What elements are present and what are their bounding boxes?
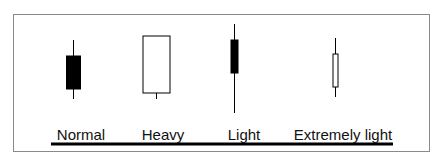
label-heavy: Heavy — [142, 126, 185, 143]
label-extremely-light: Extremely light — [294, 126, 392, 143]
candle-extremely-light — [333, 38, 338, 97]
label-light: Light — [228, 126, 261, 143]
candle-body — [67, 56, 81, 89]
candle-normal — [67, 40, 81, 99]
candle-body — [231, 40, 238, 73]
candle-light — [231, 24, 238, 113]
candle-heavy — [143, 36, 170, 99]
label-normal: Normal — [57, 126, 105, 143]
candle-body — [333, 54, 338, 87]
candle-body — [143, 36, 170, 93]
